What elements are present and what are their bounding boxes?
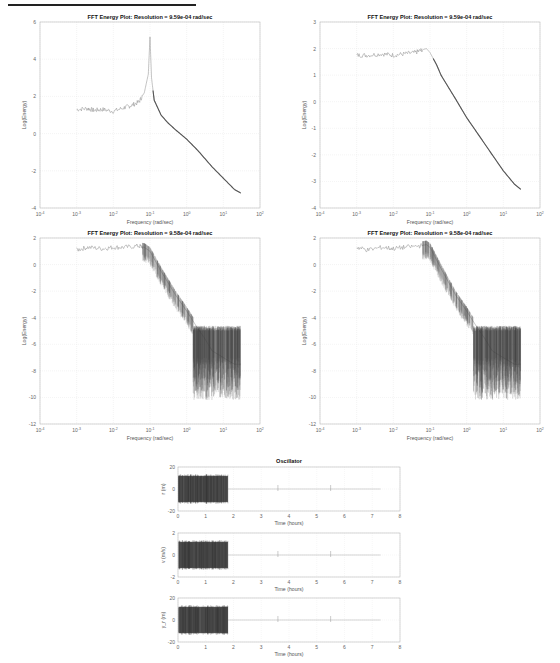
x-tick-label: 10-3 [72,211,81,217]
y-tick-label: 2 [33,235,36,241]
fft-plot-3: FFT Energy Plot: Resolution = 9.58e-04 r… [0,228,280,446]
x-tick-label: 101 [220,427,228,433]
x-tick-label: 102 [256,211,264,217]
y-tick-label: -8 [312,368,317,374]
x-tick-label: 101 [500,211,508,217]
x-tick-exponent: -2 [395,211,398,215]
y-tick-label: -6 [32,341,37,347]
noise-band [474,326,521,400]
y-tick-label: -2 [32,168,37,174]
y-tick-label: -2 [312,288,317,294]
x-tick-exponent: 1 [505,211,507,215]
x-tick-label: 101 [500,427,508,433]
oscillator-title: Oscillator [276,458,303,464]
x-axis-label: Frequency (rad/sec) [407,219,454,225]
chart-title: FFT Energy Plot: Resolution = 9.58e-04 r… [88,230,213,236]
x-tick-exponent: -1 [431,427,434,431]
y-tick-label: 2 [172,530,175,536]
y-tick-label: -2 [32,288,37,294]
x-tick-exponent: 0 [188,211,190,215]
y-tick-label: -2 [171,574,176,580]
x-tick-label: 5 [315,579,318,585]
x-tick-label: 10-3 [72,427,81,433]
x-axis-label: Time (hours) [274,586,303,592]
x-tick-label: 7 [371,644,374,650]
x-tick-exponent: -3 [78,427,81,431]
y-tick-label: 0 [33,262,36,268]
y-tick-label: -10 [309,394,316,400]
y-tick-label: 0 [172,486,175,492]
x-tick-exponent: 1 [505,427,507,431]
y-tick-label: 0 [172,552,175,558]
x-tick-label: 10-1 [426,211,435,217]
chart-title: FFT Energy Plot: Resolution = 9.59e-04 r… [88,14,213,20]
spectrum-line [77,37,241,193]
x-tick-label: 10-1 [146,211,155,217]
x-tick-label: 10-2 [389,211,398,217]
x-tick-label: 1 [204,644,207,650]
x-tick-label: 2 [232,513,235,519]
x-tick-label: 4 [288,579,291,585]
y-tick-label: -6 [312,341,317,347]
x-tick-label: 100 [463,211,471,217]
x-tick-label: 0 [177,644,180,650]
x-tick-exponent: 2 [262,211,264,215]
x-tick-label: 5 [315,513,318,519]
oscillator-subplot-3: 200-20012345678Time (hours)y_r (m) [160,595,402,657]
x-tick-label: 7 [371,579,374,585]
x-tick-exponent: 2 [262,427,264,431]
noise-band [193,326,240,400]
y-axis-label: Log(Energy) [301,100,307,129]
x-tick-exponent: -3 [78,211,81,215]
x-tick-exponent: -1 [151,211,154,215]
y-tick-label: 2 [33,93,36,99]
x-tick-label: 6 [343,579,346,585]
y-tick-label: -3 [312,178,317,184]
x-tick-label: 3 [260,644,263,650]
x-tick-exponent: -3 [358,211,361,215]
x-tick-label: 0 [177,513,180,519]
x-tick-label: 8 [399,513,402,519]
x-tick-exponent: 1 [225,211,227,215]
x-tick-label: 4 [288,513,291,519]
x-tick-exponent: 0 [468,211,470,215]
x-tick-label: 10-1 [426,427,435,433]
x-tick-label: 2 [232,644,235,650]
x-axis-label: Frequency (rad/sec) [407,435,454,441]
x-tick-label: 0 [177,579,180,585]
y-tick-label: 2 [313,46,316,52]
y-tick-label: -20 [168,639,175,645]
x-tick-label: 102 [536,211,544,217]
x-tick-exponent: 2 [542,211,544,215]
x-tick-label: 10-4 [36,211,45,217]
y-tick-label: 20 [169,595,175,601]
y-tick-label: 0 [172,617,175,623]
x-tick-label: 102 [536,427,544,433]
x-tick-label: 10-2 [109,427,118,433]
fft-plot-2: FFT Energy Plot: Resolution = 9.59e-04 r… [280,12,560,230]
y-tick-label: -10 [29,394,36,400]
x-tick-label: 10-1 [146,427,155,433]
x-tick-label: 100 [463,427,471,433]
x-tick-label: 3 [260,513,263,519]
chart-title: FFT Energy Plot: Resolution = 9.59e-04 r… [368,14,493,20]
spectrum-decline [433,59,521,190]
y-tick-label: -4 [32,315,37,321]
chart-title: FFT Energy Plot: Resolution = 9.58e-04 r… [368,230,493,236]
x-tick-exponent: -2 [115,211,118,215]
x-tick-label: 10-2 [109,211,118,217]
y-axis-label: Log(Energy) [301,316,307,345]
x-tick-label: 10-4 [316,427,325,433]
y-tick-label: -4 [312,315,317,321]
x-tick-exponent: -2 [395,427,398,431]
x-axis-label: Time (hours) [274,520,303,526]
x-tick-exponent: -4 [41,211,44,215]
x-tick-label: 8 [399,579,402,585]
x-tick-label: 1 [204,513,207,519]
oscillator-subplot-2: 20-2012345678Time (hours)v (m/s) [160,530,402,592]
x-tick-exponent: -4 [41,427,44,431]
fft-plot-4: FFT Energy Plot: Resolution = 9.58e-04 r… [280,228,560,446]
x-tick-label: 10-3 [352,211,361,217]
x-tick-label: 5 [315,644,318,650]
x-tick-label: 10-3 [352,427,361,433]
